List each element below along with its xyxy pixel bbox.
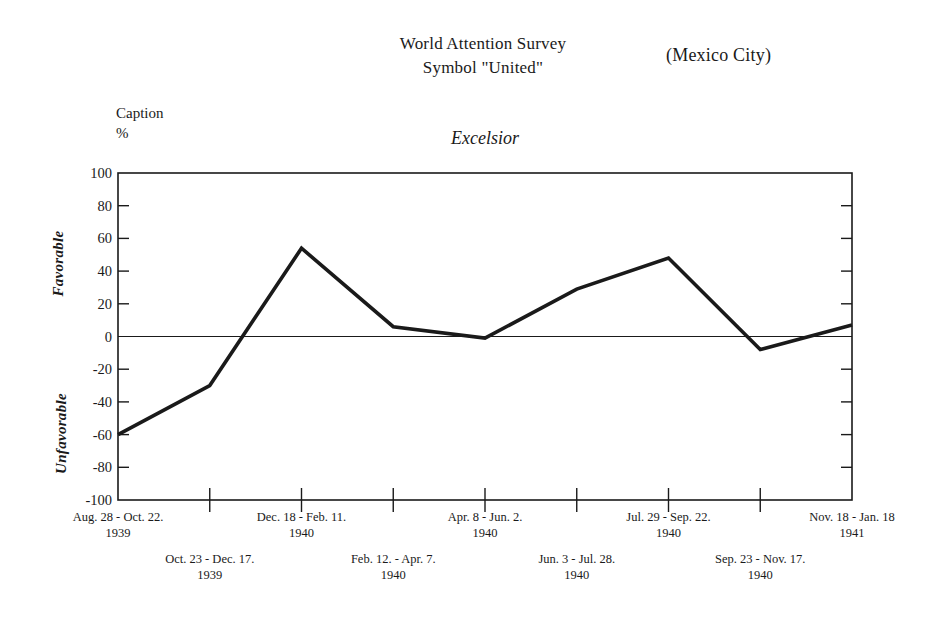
x-tick-label: Sep. 23 - Nov. 17.1940 <box>680 551 840 583</box>
x-tick-label: Jul. 29 - Sep. 22.1940 <box>589 509 749 541</box>
x-tick-label: Dec. 18 - Feb. 11.1940 <box>222 509 382 541</box>
x-tick-period: Sep. 23 - Nov. 17. <box>680 551 840 567</box>
x-tick-period: Nov. 18 - Jan. 18 <box>772 509 932 525</box>
x-tick-year: 1940 <box>497 567 657 583</box>
x-tick-period: Dec. 18 - Feb. 11. <box>222 509 382 525</box>
x-tick-year: 1940 <box>313 567 473 583</box>
x-tick-label: Oct. 23 - Dec. 17.1939 <box>130 551 290 583</box>
x-tick-year: 1940 <box>589 525 749 541</box>
x-tick-year: 1940 <box>680 567 840 583</box>
x-tick-label: Feb. 12. - Apr. 7.1940 <box>313 551 473 583</box>
x-tick-year: 1941 <box>772 525 932 541</box>
x-tick-period: Apr. 8 - Jun. 2. <box>405 509 565 525</box>
x-tick-period: Feb. 12. - Apr. 7. <box>313 551 473 567</box>
x-tick-period: Jul. 29 - Sep. 22. <box>589 509 749 525</box>
x-tick-year: 1940 <box>405 525 565 541</box>
x-tick-period: Aug. 28 - Oct. 22. <box>38 509 198 525</box>
x-tick-label: Apr. 8 - Jun. 2.1940 <box>405 509 565 541</box>
plot-area: Favorable Unfavorable 100806040200-20-40… <box>0 0 948 620</box>
x-tick-label: Nov. 18 - Jan. 181941 <box>772 509 932 541</box>
x-tick-year: 1939 <box>38 525 198 541</box>
x-tick-label: Jun. 3 - Jul. 28.1940 <box>497 551 657 583</box>
x-tick-label: Aug. 28 - Oct. 22.1939 <box>38 509 198 541</box>
data-series-line <box>118 248 852 434</box>
x-tick-year: 1939 <box>130 567 290 583</box>
x-tick-period: Jun. 3 - Jul. 28. <box>497 551 657 567</box>
x-tick-year: 1940 <box>222 525 382 541</box>
chart-page: World Attention Survey Symbol "United" (… <box>0 0 948 620</box>
x-tick-period: Oct. 23 - Dec. 17. <box>130 551 290 567</box>
